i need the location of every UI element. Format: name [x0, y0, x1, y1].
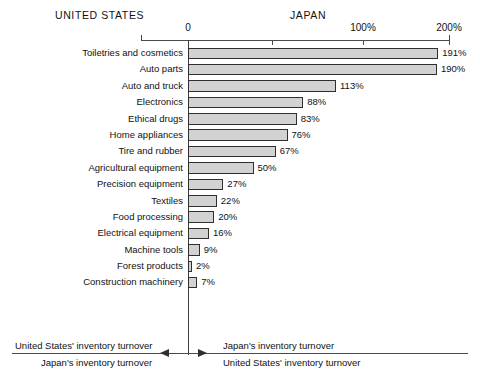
axis-tick-100% — [363, 40, 364, 45]
bar — [188, 113, 297, 125]
bar-row: Forest products2% — [0, 259, 480, 275]
inventory-turnover-chart: UNITED STATES JAPAN 0100%200% Toiletries… — [0, 0, 480, 392]
bar-category-label: Textiles — [151, 195, 183, 206]
bar-category-label: Food processing — [113, 211, 183, 222]
bar-value-label: 20% — [218, 211, 237, 222]
bar — [188, 195, 217, 207]
bar-category-label: Tire and rubber — [118, 145, 183, 156]
bar — [188, 146, 276, 158]
annotation-right-denominator: United States' inventory turnover — [223, 357, 361, 368]
bar-value-label: 113% — [340, 80, 364, 91]
source-note — [8, 380, 298, 387]
bar-value-label: 50% — [258, 162, 277, 173]
axis-end-cap-left — [141, 35, 142, 41]
bar-value-label: 88% — [307, 96, 326, 107]
bar — [188, 97, 303, 109]
bar-value-label: 2% — [196, 260, 210, 271]
bar-category-label: Home appliances — [110, 129, 183, 140]
bar-category-label: Construction machinery — [83, 276, 183, 287]
bar-row: Construction machinery7% — [0, 275, 480, 291]
bar-row: Tire and rubber67% — [0, 144, 480, 160]
bar-row: Food processing20% — [0, 210, 480, 226]
chart-header-japan: JAPAN — [290, 9, 326, 21]
bar-value-label: 27% — [227, 178, 246, 189]
bar-row: Auto and truck113% — [0, 79, 480, 95]
bar-category-label: Auto parts — [140, 63, 183, 74]
annotation-right-numerator: Japan's inventory turnover — [223, 340, 334, 351]
bar-category-label: Auto and truck — [122, 80, 183, 91]
bar-category-label: Electronics — [137, 96, 183, 107]
bar-value-label: 7% — [201, 276, 215, 287]
bar — [188, 48, 438, 60]
bar-row: Electrical equipment16% — [0, 226, 480, 242]
bar-category-label: Electrical equipment — [97, 227, 183, 238]
bar-value-label: 190% — [441, 63, 465, 74]
axis-tick-label-0: 0 — [185, 22, 191, 33]
bar-row: Home appliances76% — [0, 128, 480, 144]
bar — [188, 80, 336, 92]
bar — [188, 211, 214, 223]
axis-tick-200% — [449, 40, 450, 45]
annotation-left-denominator: Japan's inventory turnover — [41, 357, 152, 368]
bar-value-label: 67% — [280, 145, 299, 156]
bar — [188, 228, 209, 240]
bar-category-label: Agricultural equipment — [88, 162, 183, 173]
bar-category-label: Forest products — [117, 260, 183, 271]
bar-category-label: Machine tools — [124, 244, 183, 255]
bar-row: Auto parts190% — [0, 62, 480, 78]
axis-tick-50 — [272, 40, 273, 45]
bar-row: Textiles22% — [0, 194, 480, 210]
bar — [188, 261, 192, 273]
bar-value-label: 76% — [292, 129, 311, 140]
chart-header-united-states: UNITED STATES — [55, 9, 144, 21]
bar-value-label: 83% — [301, 113, 320, 124]
left-arrow-icon — [160, 349, 169, 357]
right-arrow-icon — [198, 349, 207, 357]
bar-value-label: 191% — [442, 47, 466, 58]
bar — [188, 277, 197, 289]
annotation-left-numerator: United States' inventory turnover — [15, 340, 153, 351]
bar-plot-area: Toiletries and cosmetics191%Auto parts19… — [0, 46, 480, 298]
bar-category-label: Precision equipment — [97, 178, 183, 189]
bar-value-label: 9% — [204, 244, 218, 255]
bar-row: Toiletries and cosmetics191% — [0, 46, 480, 62]
bar-row: Machine tools9% — [0, 243, 480, 259]
bar — [188, 162, 254, 174]
bar-row: Ethical drugs83% — [0, 112, 480, 128]
bar — [188, 179, 223, 191]
bar — [188, 129, 288, 141]
bar-category-label: Ethical drugs — [128, 113, 183, 124]
axis-tick-label-200%: 200% — [436, 22, 462, 33]
bar-value-label: 22% — [221, 195, 240, 206]
ratio-annotation: United States' inventory turnover Japan'… — [0, 330, 480, 376]
axis-tick-label-100%: 100% — [350, 22, 376, 33]
bar-row: Agricultural equipment50% — [0, 161, 480, 177]
bar-category-label: Toiletries and cosmetics — [82, 47, 183, 58]
bar-row: Electronics88% — [0, 95, 480, 111]
bar — [188, 244, 200, 256]
bar-row: Precision equipment27% — [0, 177, 480, 193]
bar-value-label: 16% — [213, 227, 232, 238]
bar — [188, 64, 437, 76]
annotation-divider-line — [12, 353, 468, 354]
x-axis: 0100%200% — [0, 22, 480, 46]
